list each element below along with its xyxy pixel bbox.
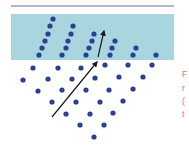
wavefront-dot	[42, 38, 47, 43]
caption-line-1: F	[182, 70, 188, 79]
wavefront-dot	[55, 65, 60, 70]
wavefront-dot	[140, 74, 145, 79]
wavefront-dot	[112, 38, 117, 43]
caption-line-2: r	[182, 84, 185, 93]
wavefront-dot	[101, 122, 106, 127]
wavefront-dot	[63, 45, 68, 50]
medium-region	[11, 14, 174, 60]
wavefront-dot	[133, 45, 138, 50]
wavefront-dot	[149, 62, 154, 67]
wavefront-dot	[120, 98, 125, 103]
wavefront-dot	[86, 45, 91, 50]
wavefront-dot	[83, 52, 88, 57]
wavefront-dot	[69, 76, 74, 81]
wavefront-dot	[30, 65, 35, 70]
wavefront-dot	[59, 52, 64, 57]
wavefront-dot	[70, 23, 75, 28]
wavefront-dot	[109, 45, 114, 50]
wavefront-dot	[78, 65, 83, 70]
wavefront-dot	[91, 134, 96, 139]
wavefront-dot	[125, 62, 130, 67]
wavefront-dot	[87, 111, 92, 116]
wavefront-dot	[83, 87, 88, 92]
wavefront-dot	[45, 31, 50, 36]
wavefront-dot	[50, 16, 55, 21]
wavefront-dot	[106, 87, 111, 92]
wavefront-dot	[65, 38, 70, 43]
wavefront-dot	[116, 74, 121, 79]
wavefront-dot	[77, 122, 82, 127]
caption-line-4: t	[182, 110, 185, 119]
wavefront-dot	[59, 87, 64, 92]
wavefront-dot	[63, 111, 68, 116]
wavefront-dot	[89, 38, 94, 43]
wavefront-dot	[102, 62, 107, 67]
wavefront-dot	[47, 23, 52, 28]
wavefront-dot	[107, 52, 112, 57]
caption-line-3: (	[182, 97, 185, 106]
wavefront-dot	[20, 77, 25, 82]
wavefront-dot	[73, 99, 78, 104]
wavefront-dot	[39, 45, 44, 50]
wavefront-dot	[92, 75, 97, 80]
wavefront-dot	[68, 31, 73, 36]
wavefront-dot	[91, 31, 96, 36]
wavefront-dot	[130, 86, 135, 91]
wavefront-dot	[35, 88, 40, 93]
wavefront-dot	[36, 52, 41, 57]
wavefront-dot	[130, 52, 135, 57]
refraction-diagram	[0, 0, 189, 149]
wavefront-dot	[153, 52, 158, 57]
wavefront-dot	[97, 99, 102, 104]
wavefront-dot	[110, 110, 115, 115]
wavefront-dot	[49, 99, 54, 104]
wavefront-dot	[45, 76, 50, 81]
